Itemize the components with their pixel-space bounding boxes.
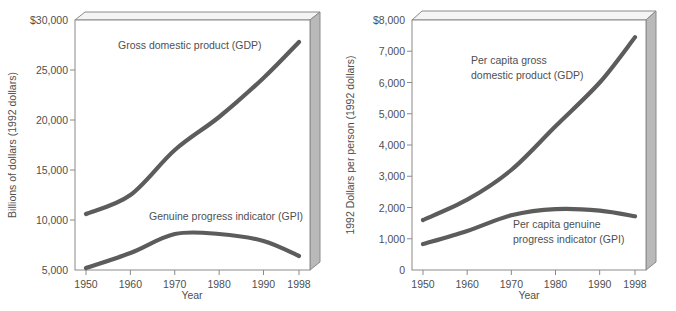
chart-right-top-face bbox=[412, 11, 656, 20]
chart-right-x-tick-label: 1998 bbox=[623, 278, 647, 290]
chart-right-y-tick-label: 6,000 bbox=[379, 77, 405, 89]
chart-right-y-tick-label: 2,000 bbox=[379, 202, 405, 214]
chart-left-x-tick-label: 1960 bbox=[119, 278, 143, 290]
chart-right-x-tick-group: 195019601970198019901998 bbox=[411, 270, 647, 290]
chart-left-y-tick-label: 20,000 bbox=[36, 114, 68, 126]
chart-right-y-tick-label: 3,000 bbox=[379, 170, 405, 182]
chart-left-y-tick-label: 25,000 bbox=[36, 64, 68, 76]
chart-right-x-tick-label: 1960 bbox=[455, 278, 479, 290]
chart-left-y-axis-title: Billions of dollars (1992 dollars) bbox=[6, 72, 18, 218]
chart-right-y-tick-label: 7,000 bbox=[379, 45, 405, 57]
chart-right-y-tick-group: $8,0007,0006,0005,0004,0003,0002,0001,00… bbox=[373, 14, 412, 276]
chart-right-annotation-gpi-line1: Per capita genuine bbox=[513, 218, 601, 230]
chart-left-x-axis-title: Year bbox=[181, 289, 203, 301]
chart-left-top-face bbox=[75, 12, 320, 20]
chart-left-annotation-gpi: Genuine progress indicator (GPI) bbox=[149, 210, 303, 222]
chart-left-y-tick-group: $30,00025,00020,00015,00010,0005,000 bbox=[30, 14, 75, 276]
chart-left-svg: $30,00025,00020,00015,00010,0005,000 195… bbox=[0, 0, 340, 311]
chart-right-y-tick-label: 1,000 bbox=[379, 233, 405, 245]
chart-right-y-tick-label: $8,000 bbox=[373, 14, 405, 26]
chart-right-right-face bbox=[646, 11, 656, 270]
chart-panel-right: $8,0007,0006,0005,0004,0003,0002,0001,00… bbox=[340, 0, 676, 311]
chart-left-annotation-gdp: Gross domestic product (GDP) bbox=[118, 39, 262, 51]
chart-right-y-tick-label: 4,000 bbox=[379, 139, 405, 151]
figure-two-line-charts: $30,00025,00020,00015,00010,0005,000 195… bbox=[0, 0, 676, 311]
chart-right-annotation-gdp-line1: Per capita gross bbox=[471, 54, 547, 66]
chart-left-x-tick-label: 1990 bbox=[252, 278, 276, 290]
chart-right-y-tick-label: 0 bbox=[399, 264, 405, 276]
chart-right-y-axis-title: 1992 Dollars per person (1992 dollars) bbox=[344, 55, 356, 234]
chart-left-y-tick-label: 10,000 bbox=[36, 214, 68, 226]
chart-right-y-tick-label: 5,000 bbox=[379, 108, 405, 120]
chart-right-x-tick-label: 1950 bbox=[411, 278, 435, 290]
chart-left-x-tick-label: 1950 bbox=[74, 278, 98, 290]
chart-left-x-tick-label: 1998 bbox=[287, 278, 311, 290]
chart-left-y-tick-label: 5,000 bbox=[42, 264, 68, 276]
chart-left-right-face bbox=[310, 12, 320, 270]
chart-right-annotation-gpi-line2: progress indicator (GPI) bbox=[513, 233, 624, 245]
chart-left-x-tick-group: 195019601970198019901998 bbox=[74, 270, 311, 290]
chart-left-y-tick-label: 15,000 bbox=[36, 164, 68, 176]
chart-right-svg: $8,0007,0006,0005,0004,0003,0002,0001,00… bbox=[340, 0, 676, 311]
chart-left-x-tick-label: 1980 bbox=[207, 278, 231, 290]
chart-right-x-axis-title: Year bbox=[518, 289, 540, 301]
chart-left-y-tick-label: $30,000 bbox=[30, 14, 68, 26]
chart-right-x-tick-label: 1990 bbox=[588, 278, 612, 290]
chart-right-x-tick-label: 1980 bbox=[544, 278, 568, 290]
chart-panel-left: $30,00025,00020,00015,00010,0005,000 195… bbox=[0, 0, 340, 311]
chart-right-annotation-gdp-line2: domestic product (GDP) bbox=[471, 69, 584, 81]
